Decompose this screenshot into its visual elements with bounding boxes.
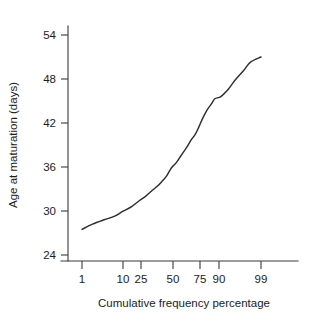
y-tick-marks (61, 35, 68, 255)
x-tick-labels: 1 10 25 50 75 90 99 (79, 273, 268, 285)
x-tick-marks (82, 261, 261, 269)
y-tick-label: 24 (43, 249, 56, 261)
y-tick-label: 30 (43, 205, 56, 217)
data-curve (82, 57, 261, 229)
x-tick-label: 75 (194, 273, 207, 285)
x-tick-label: 10 (117, 273, 130, 285)
x-axis-title: Cumulative frequency percentage (98, 297, 270, 309)
x-tick-label: 99 (255, 273, 268, 285)
x-tick-label: 25 (135, 273, 148, 285)
x-tick-label: 90 (213, 273, 226, 285)
y-tick-label: 42 (43, 117, 56, 129)
y-tick-label: 36 (43, 161, 56, 173)
chart-container: 54 48 42 36 30 24 1 10 25 50 75 90 99 (0, 0, 311, 321)
y-tick-label: 54 (43, 29, 56, 41)
line-chart: 54 48 42 36 30 24 1 10 25 50 75 90 99 (0, 0, 311, 321)
y-axis-title: Age at maturation (days) (7, 82, 19, 208)
x-tick-label: 1 (79, 273, 85, 285)
y-tick-labels: 54 48 42 36 30 24 (43, 29, 56, 261)
x-tick-label: 50 (167, 273, 180, 285)
y-tick-label: 48 (43, 73, 56, 85)
